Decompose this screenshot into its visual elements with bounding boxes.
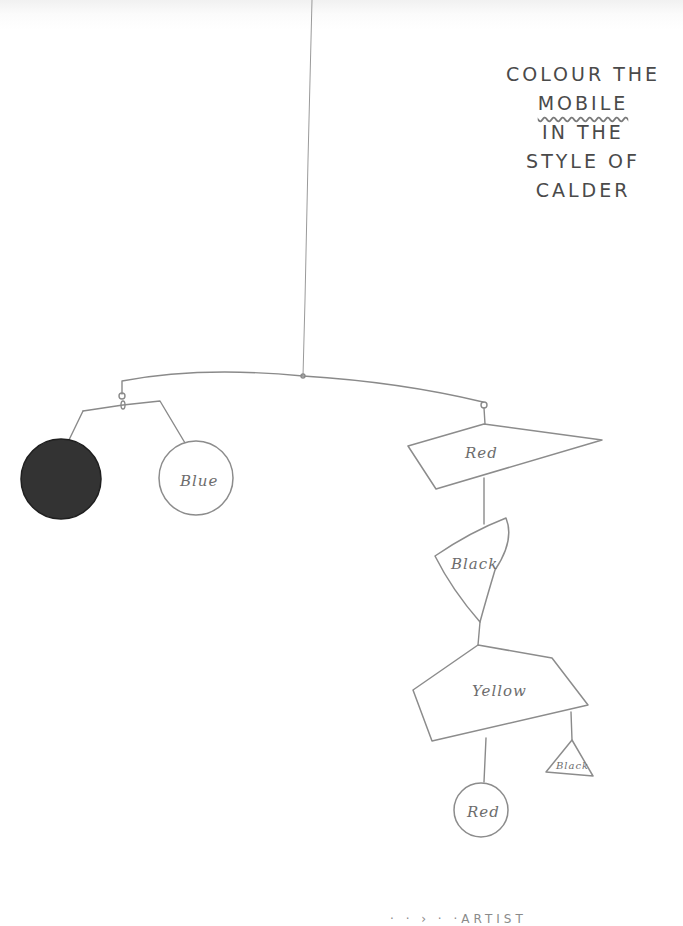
yellow-pentagon-label: Yellow [472, 682, 527, 700]
black-triangle-label: Black [555, 760, 589, 771]
title-line-4: STYLE OF [488, 147, 678, 176]
black-shield-label: Black [450, 555, 498, 573]
wire-to-pentagon [478, 622, 480, 645]
red-circle-label: Red [466, 803, 500, 821]
top-crossbar [122, 372, 483, 402]
worksheet-title: COLOUR THE MOBILE IN THE STYLE OF CALDER [488, 60, 678, 205]
right-hook [481, 402, 487, 408]
title-line-5: CALDER [488, 176, 678, 205]
title-line-1: COLOUR THE [488, 60, 678, 89]
right-hook-wire [484, 408, 485, 424]
left-wire [68, 411, 83, 442]
wire-to-triangle [571, 712, 572, 740]
title-line-2: MOBILE [488, 89, 678, 118]
red-quad-shape[interactable] [408, 424, 602, 489]
wire-to-red-circle [484, 738, 486, 782]
black-circle-shape[interactable] [21, 439, 101, 519]
red-quad-label: Red [464, 444, 498, 462]
footer-cropped-text: · · › · ·ARTIST [390, 912, 683, 926]
hanging-string [303, 0, 312, 376]
left-subbar [83, 401, 188, 448]
blue-circle-label: Blue [179, 472, 218, 490]
worksheet-page: Blue Red Black Yellow Black Red COLOUR T… [0, 0, 683, 926]
title-line-3: IN THE [488, 118, 678, 147]
